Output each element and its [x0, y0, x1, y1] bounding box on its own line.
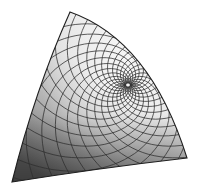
figure-canvas: [0, 0, 203, 192]
curved-triangle-surface: [0, 0, 203, 192]
surface-body: [0, 0, 203, 192]
